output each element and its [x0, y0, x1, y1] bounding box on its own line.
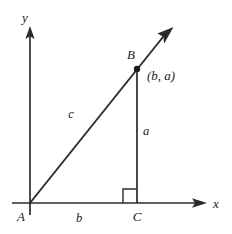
point-coordinates-label: (b, a): [147, 68, 175, 83]
vertex-b-dot: [134, 66, 140, 72]
y-axis-label: y: [20, 10, 28, 25]
side-label-c: c: [68, 107, 74, 121]
geometry-diagram: y x A B C c a b (b, a): [0, 0, 232, 234]
side-label-b: b: [76, 211, 82, 225]
vertex-label-a: A: [16, 209, 25, 224]
vertex-label-c: C: [133, 209, 142, 224]
hypotenuse-ray: [30, 35, 165, 204]
figure-container: y x A B C c a b (b, a): [0, 0, 232, 234]
x-axis-label: x: [212, 196, 219, 211]
right-angle-marker-icon: [123, 189, 137, 203]
vertex-label-b: B: [127, 47, 135, 62]
side-label-a: a: [143, 124, 149, 138]
